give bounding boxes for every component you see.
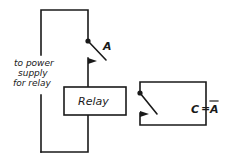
switch-a-label: A: [102, 40, 112, 53]
switch-a-contact-flag: [88, 58, 97, 64]
output-label-a: A: [209, 103, 219, 116]
output-label-c: C: [191, 103, 199, 116]
output-switch-contact-flag: [140, 111, 149, 117]
power-note-line-2: supply: [18, 68, 48, 78]
relay-label: Relay: [78, 95, 109, 108]
power-loop-bottom-wire: [41, 115, 88, 152]
power-note-line-1: to power: [14, 58, 55, 68]
output-switch-blade: [140, 93, 157, 114]
relay-diagram: A to power supply for relay Relay C = A: [0, 0, 232, 162]
diagram-svg: A to power supply for relay Relay C = A: [0, 0, 232, 162]
output-label: C = A: [191, 101, 219, 116]
output-label-equals: =: [201, 102, 210, 115]
power-loop-top-wire: [41, 10, 88, 55]
power-note-line-3: for relay: [13, 78, 51, 88]
